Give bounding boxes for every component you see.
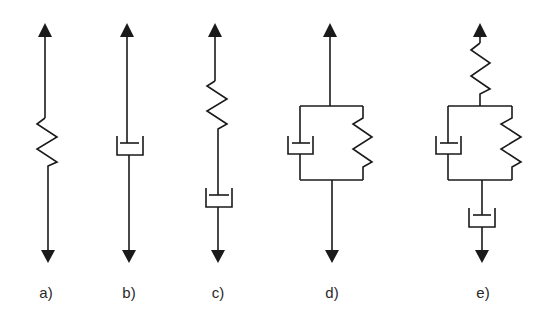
- panel-c-maxwell-model: [206, 23, 232, 263]
- arrow-up-icon: [473, 23, 487, 37]
- arrow-up-icon: [38, 23, 52, 37]
- arrow-up-icon: [208, 23, 222, 37]
- dashpot-icon: [117, 136, 143, 155]
- panel-label-e: e): [463, 284, 503, 301]
- panel-a-spring-model: [37, 23, 57, 263]
- panel-label-c: c): [198, 284, 238, 301]
- panel-label-d: d): [312, 284, 352, 301]
- arrow-up-icon: [323, 23, 337, 37]
- dashpot-icon: [206, 188, 232, 207]
- panel-label-a: a): [26, 284, 66, 301]
- panel-d-kelvin-voigt-model: [288, 23, 372, 263]
- spring-icon: [353, 106, 372, 180]
- arrow-down-icon: [122, 250, 136, 263]
- panel-label-b: b): [109, 284, 149, 301]
- arrow-down-icon: [325, 250, 339, 263]
- rheological-models-figure: a) b) c) d) e): [0, 0, 551, 314]
- arrow-down-icon: [475, 250, 489, 263]
- spring-icon: [37, 118, 57, 168]
- arrow-up-icon: [120, 23, 134, 37]
- panel-b-dashpot-model: [117, 23, 143, 263]
- spring-icon: [471, 43, 490, 106]
- spring-icon: [501, 106, 521, 180]
- arrow-down-icon: [211, 250, 225, 263]
- spring-icon: [207, 81, 227, 131]
- arrow-down-icon: [41, 250, 55, 263]
- panel-e-burgers-model: [436, 23, 521, 263]
